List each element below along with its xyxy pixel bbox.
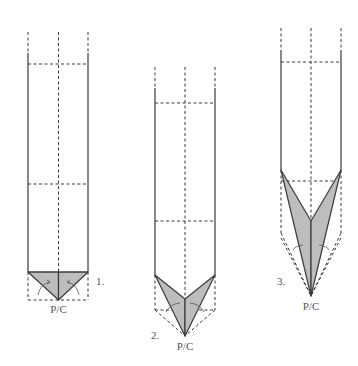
step-1-figure	[28, 32, 88, 300]
step-2-point-label: P/C	[177, 340, 194, 352]
step-2-figure	[155, 67, 215, 336]
step-2-number: 2.	[151, 329, 160, 341]
origami-diagram: P/C 1. P/C 2.	[0, 0, 358, 366]
step-3-number: 3.	[277, 275, 286, 287]
step-1-number: 1.	[96, 275, 105, 287]
step-3-figure	[281, 28, 341, 296]
step-3-point-label: P/C	[303, 300, 320, 312]
step-1-point-label: P/C	[50, 303, 67, 315]
